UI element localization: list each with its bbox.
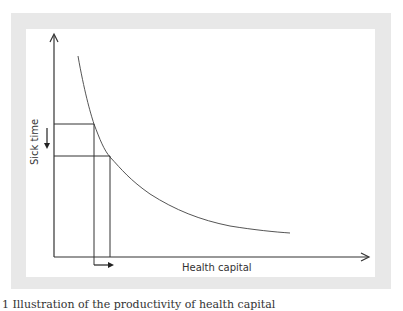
figure-caption: 1 Illustration of the productivity of he… bbox=[2, 298, 275, 311]
y-axis-label: Sick time bbox=[29, 119, 40, 165]
right-arrow-icon bbox=[94, 262, 114, 268]
down-arrow-icon bbox=[44, 128, 50, 149]
x-axis bbox=[54, 253, 369, 261]
reference-lines bbox=[54, 124, 110, 265]
y-axis bbox=[50, 34, 58, 257]
x-axis-label: Health capital bbox=[182, 262, 252, 273]
